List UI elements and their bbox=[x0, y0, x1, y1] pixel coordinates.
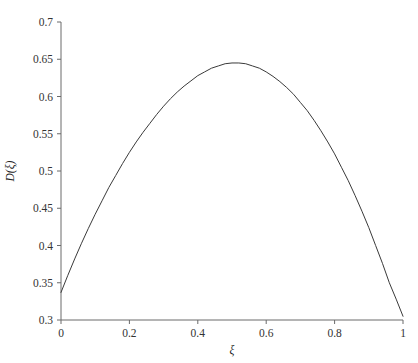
x-axis-title: ξ bbox=[230, 344, 235, 357]
y-tick-label: 0.65 bbox=[33, 53, 53, 65]
y-tick-label: 0.45 bbox=[33, 202, 53, 214]
y-tick-labels: 0.30.350.40.450.50.550.60.650.7 bbox=[33, 16, 53, 326]
x-tick-label: 0 bbox=[58, 327, 64, 339]
y-tick-label: 0.3 bbox=[39, 314, 54, 326]
x-tick-label: 0.2 bbox=[122, 327, 137, 339]
data-series-group bbox=[61, 63, 403, 316]
y-tick-label: 0.7 bbox=[39, 16, 54, 28]
y-axis-title: D(ξ) bbox=[4, 160, 17, 182]
x-tick-label: 0.6 bbox=[259, 327, 274, 339]
tick-marks-group bbox=[57, 22, 403, 324]
chart-container: 0.30.350.40.450.50.550.60.650.7 00.20.40… bbox=[0, 0, 418, 363]
y-tick-label: 0.4 bbox=[39, 240, 54, 252]
y-tick-label: 0.55 bbox=[33, 128, 53, 140]
x-tick-labels: 00.20.40.60.81 bbox=[58, 327, 406, 339]
x-tick-label: 1 bbox=[400, 327, 406, 339]
data-curve bbox=[61, 63, 403, 316]
y-tick-label: 0.6 bbox=[39, 91, 54, 103]
x-tick-label: 0.8 bbox=[327, 327, 342, 339]
axes-group bbox=[61, 22, 403, 320]
line-chart: 0.30.350.40.450.50.550.60.650.7 00.20.40… bbox=[0, 0, 418, 363]
y-tick-label: 0.35 bbox=[33, 277, 53, 289]
x-tick-label: 0.4 bbox=[191, 327, 206, 339]
y-tick-label: 0.5 bbox=[39, 165, 54, 177]
